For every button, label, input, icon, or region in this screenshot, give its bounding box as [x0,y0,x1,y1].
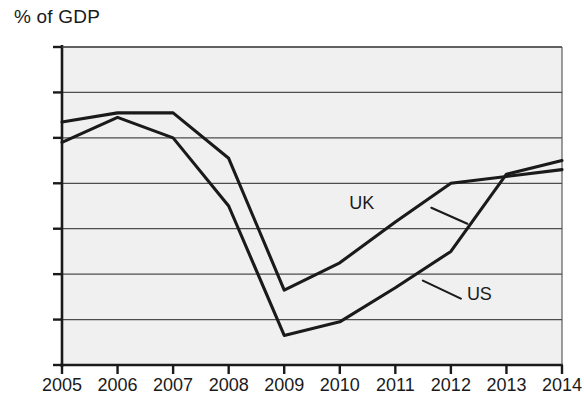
plot-background [62,47,562,365]
y-axis-ticks [53,47,62,365]
x-axis-label-2010: 2010 [314,376,366,394]
x-axis-label-2012: 2012 [425,376,477,394]
series-annotation-uk: UK [349,194,374,212]
gdp-deficit-line-chart: % of GDP 0-2-4-6-8-10-12-14 200520062007… [0,0,584,413]
x-axis-label-2007: 2007 [147,376,199,394]
x-axis-label-2014: 2014 [536,376,584,394]
x-axis-label-2009: 2009 [258,376,310,394]
x-axis-label-2005: 2005 [36,376,88,394]
x-axis-label-2013: 2013 [480,376,532,394]
x-axis-label-2008: 2008 [203,376,255,394]
plot-canvas [0,0,584,413]
x-axis-label-2006: 2006 [92,376,144,394]
series-annotation-us: US [467,285,492,303]
x-axis-tick-labels: 2005200620072008200920102011201220132014 [0,372,584,404]
x-axis-label-2011: 2011 [369,376,421,394]
